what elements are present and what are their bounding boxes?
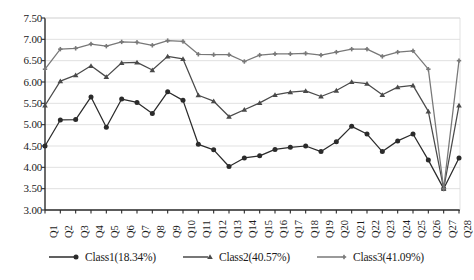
x-tick-label: Q5 — [110, 225, 121, 238]
data-point — [288, 52, 292, 56]
x-tick-label: Q3 — [80, 225, 91, 238]
data-point — [43, 144, 48, 149]
x-tick-label: Q8 — [156, 225, 167, 238]
y-tick-label: 4.00 — [4, 162, 42, 173]
x-tick-label: Q11 — [202, 220, 213, 238]
data-point — [342, 255, 346, 259]
data-point — [395, 138, 400, 143]
legend-item[interactable]: Class3(41.09%) — [316, 251, 424, 263]
data-point — [242, 59, 246, 63]
data-point — [257, 153, 262, 158]
data-point — [334, 88, 340, 93]
data-point — [89, 42, 93, 46]
x-tick-label: Q12 — [218, 220, 229, 238]
data-point — [58, 117, 63, 122]
data-point — [411, 132, 416, 137]
data-point — [426, 158, 431, 163]
data-point — [119, 40, 123, 44]
legend-marker-icon — [48, 252, 82, 262]
x-tick-label: Q24 — [402, 220, 413, 238]
x-tick-label: Q6 — [126, 225, 137, 238]
data-point — [104, 125, 109, 130]
data-point — [150, 43, 154, 47]
y-tick-label: 6.00 — [4, 77, 42, 88]
x-tick-label: Q2 — [64, 225, 75, 238]
data-point — [196, 142, 201, 147]
x-tick-label: Q18 — [310, 220, 321, 238]
data-point — [380, 54, 384, 58]
x-tick-label: Q14 — [248, 220, 259, 238]
data-point — [73, 73, 79, 78]
data-point — [319, 149, 324, 154]
x-tick-label: Q13 — [233, 220, 244, 238]
data-point — [349, 124, 354, 129]
y-tick-label: 4.50 — [4, 141, 42, 152]
data-point — [288, 145, 293, 150]
data-point — [135, 40, 139, 44]
y-tick-label: 5.50 — [4, 98, 42, 109]
x-tick-label: Q20 — [340, 220, 351, 238]
y-axis: 7.507.006.506.005.505.004.504.003.503.00 — [0, 18, 42, 210]
data-point — [227, 52, 231, 56]
legend-label: Class3(41.09%) — [353, 251, 424, 263]
x-tick-label: Q4 — [95, 225, 106, 238]
data-point — [150, 111, 155, 116]
chart-canvas — [45, 18, 460, 210]
legend-label: Class1(18.34%) — [85, 251, 156, 263]
data-point — [196, 93, 202, 98]
x-tick-label: Q22 — [371, 220, 382, 238]
data-point — [426, 109, 432, 114]
data-point — [165, 89, 170, 94]
y-tick-label: 7.00 — [4, 34, 42, 45]
y-tick-label: 6.50 — [4, 55, 42, 66]
data-point — [380, 149, 385, 154]
data-point — [365, 132, 370, 137]
legend-item[interactable]: Class1(18.34%) — [48, 251, 156, 263]
x-tick-label: Q21 — [356, 220, 367, 238]
data-point — [273, 52, 277, 56]
y-tick-label: 3.00 — [4, 205, 42, 216]
x-tick-label: Q25 — [417, 220, 428, 238]
data-point — [207, 254, 213, 259]
data-point — [181, 98, 186, 103]
data-point — [303, 51, 307, 55]
plot-area — [45, 18, 460, 210]
data-point — [89, 94, 94, 99]
y-tick-label: 3.50 — [4, 183, 42, 194]
data-point — [73, 46, 77, 50]
chart-legend: Class1(18.34%)Class2(40.57%)Class3(41.09… — [0, 248, 472, 266]
data-point — [242, 155, 247, 160]
x-tick-label: Q26 — [432, 220, 443, 238]
data-point — [303, 144, 308, 149]
data-point — [227, 164, 232, 169]
x-tick-label: Q19 — [325, 220, 336, 238]
data-point — [457, 58, 461, 62]
data-point — [365, 47, 369, 51]
data-point — [334, 50, 338, 54]
data-point — [319, 53, 323, 57]
data-point — [211, 52, 215, 56]
data-point — [457, 155, 462, 160]
series-1 — [43, 89, 462, 191]
series-line — [45, 41, 459, 189]
legend-label: Class2(40.57%) — [219, 251, 290, 263]
x-tick-label: Q9 — [172, 225, 183, 238]
legend-item[interactable]: Class2(40.57%) — [182, 251, 290, 263]
data-point — [73, 117, 78, 122]
data-point — [395, 50, 399, 54]
data-point — [211, 147, 216, 152]
x-tick-label: Q7 — [141, 225, 152, 238]
x-axis: Q1Q2Q3Q4Q5Q6Q7Q8Q9Q10Q11Q12Q13Q14Q15Q16Q… — [45, 212, 460, 244]
data-point — [119, 97, 124, 102]
legend-marker-icon — [316, 252, 350, 262]
data-point — [74, 255, 79, 260]
data-point — [88, 63, 94, 68]
x-tick-label: Q17 — [294, 220, 305, 238]
x-tick-label: Q15 — [264, 220, 275, 238]
data-point — [257, 53, 261, 57]
legend-marker-icon — [182, 252, 216, 262]
data-point — [273, 147, 278, 152]
data-point — [257, 100, 263, 105]
x-tick-label: Q27 — [448, 220, 459, 238]
